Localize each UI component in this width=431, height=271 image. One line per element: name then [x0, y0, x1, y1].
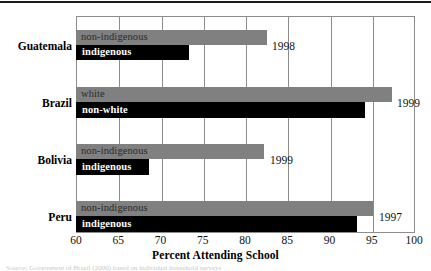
bar-brazil-minority[interactable]: non-white — [76, 102, 365, 118]
year-label-guatemala: 1998 — [272, 41, 295, 53]
x-tick-75: 75 — [188, 235, 218, 247]
x-tick-95: 95 — [357, 235, 387, 247]
bar-label-bolivia-minority: indigenous — [76, 162, 131, 173]
x-tick-80: 80 — [230, 235, 260, 247]
x-tick-60: 60 — [61, 235, 91, 247]
bar-label-brazil-minority: non-white — [76, 105, 128, 116]
bar-label-bolivia-majority: non-indigenous — [76, 146, 148, 157]
bar-label-guatemala-majority: non-indigenous — [76, 32, 148, 43]
chart-figure: Guatemala Brazil Bolivia Peru non-indige… — [0, 0, 431, 271]
bar-label-brazil-majority: white — [76, 89, 105, 100]
top-divider-rule — [0, 1, 431, 3]
bar-peru-minority[interactable]: indigenous — [76, 216, 357, 232]
category-label-bolivia: Bolivia — [0, 155, 72, 167]
year-label-bolivia: 1999 — [270, 155, 293, 167]
bar-label-guatemala-minority: indigenous — [76, 47, 131, 58]
bar-bolivia-minority[interactable]: indigenous — [76, 159, 149, 175]
bar-label-peru-majority: non-indigenous — [76, 203, 148, 214]
x-tick-65: 65 — [103, 235, 133, 247]
bar-peru-majority[interactable]: non-indigenous — [76, 201, 373, 216]
x-tick-90: 90 — [315, 235, 345, 247]
bar-bolivia-majority[interactable]: non-indigenous — [76, 144, 264, 159]
category-label-peru: Peru — [0, 212, 72, 224]
source-note: Source: Government of Brazil (2000) base… — [6, 264, 426, 271]
bar-brazil-majority[interactable]: white — [76, 87, 392, 102]
x-axis-title: Percent Attending School — [0, 249, 431, 261]
x-tick-70: 70 — [146, 235, 176, 247]
bar-guatemala-majority[interactable]: non-indigenous — [76, 30, 267, 45]
year-label-peru: 1997 — [379, 212, 402, 224]
x-tick-85: 85 — [272, 235, 302, 247]
bars-layer: non-indigenous indigenous 1998 white non… — [76, 16, 415, 233]
category-label-guatemala: Guatemala — [0, 41, 72, 53]
category-label-column: Guatemala Brazil Bolivia Peru — [0, 16, 72, 233]
year-label-brazil: 1999 — [397, 98, 420, 110]
category-label-brazil: Brazil — [0, 98, 72, 110]
bar-label-peru-minority: indigenous — [76, 219, 131, 230]
bar-guatemala-minority[interactable]: indigenous — [76, 45, 189, 60]
x-tick-100: 100 — [399, 235, 429, 247]
